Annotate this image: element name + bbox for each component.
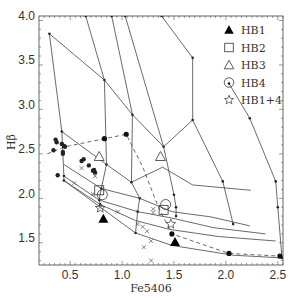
age-line bbox=[112, 16, 140, 233]
grid-node bbox=[84, 15, 87, 18]
cross-marker bbox=[151, 207, 155, 211]
legend-item: HB4 bbox=[224, 77, 265, 90]
open-triangle-marker bbox=[224, 60, 234, 69]
chart: 0.51.01.52.02.51.52.02.53.03.54.0 Fe5406… bbox=[0, 0, 291, 298]
grid-node bbox=[110, 15, 113, 18]
open-star-marker bbox=[224, 95, 233, 104]
filled-triangle-marker bbox=[170, 237, 180, 246]
dot-marker bbox=[63, 145, 67, 149]
y-tick-label: 2.5 bbox=[18, 142, 35, 156]
metallicity-line bbox=[64, 181, 282, 258]
dot-marker bbox=[51, 148, 55, 152]
y-tick-label: 1.5 bbox=[18, 231, 35, 245]
track-node bbox=[102, 136, 107, 141]
metallicity-line bbox=[49, 34, 192, 147]
age-line bbox=[49, 34, 64, 181]
grid-node bbox=[248, 117, 251, 120]
grid-node bbox=[277, 206, 280, 209]
legend-item: HB2 bbox=[225, 42, 266, 55]
legend-label: HB2 bbox=[241, 42, 266, 55]
y-axis-title: Hβ bbox=[5, 134, 18, 150]
filled-triangle-marker bbox=[98, 214, 108, 223]
legend: HB1HB2HB3HB4HB1+4 bbox=[224, 24, 282, 107]
cross-marker bbox=[72, 181, 76, 185]
y-tick-label: 3.5 bbox=[18, 53, 35, 67]
legend-item: HB1+4 bbox=[224, 94, 281, 107]
grid-node bbox=[124, 15, 127, 18]
x-tick-label: 2.5 bbox=[269, 268, 286, 282]
x-tick-label: 2.0 bbox=[218, 268, 235, 282]
dot-marker bbox=[54, 140, 58, 144]
x-tick-label: 0.5 bbox=[62, 268, 79, 282]
dot-marker bbox=[87, 163, 91, 167]
grid-node bbox=[221, 180, 224, 183]
legend-item: HB3 bbox=[224, 59, 265, 72]
age-line bbox=[229, 84, 282, 258]
cross-marker bbox=[149, 239, 153, 243]
age-line bbox=[86, 16, 107, 205]
dot-marker bbox=[81, 157, 85, 161]
grid-node bbox=[274, 180, 277, 183]
open-star-marker bbox=[166, 219, 176, 228]
grid-node bbox=[175, 206, 178, 209]
grid-node bbox=[191, 56, 194, 59]
open-triangle-marker bbox=[155, 152, 165, 161]
dot-marker bbox=[61, 150, 65, 154]
cross-marker bbox=[145, 229, 149, 233]
legend-label: HB1 bbox=[241, 24, 266, 37]
cross-marker bbox=[149, 259, 153, 263]
legend-item: HB1 bbox=[224, 24, 265, 37]
cross-marker bbox=[151, 211, 155, 215]
cross-marker bbox=[80, 166, 84, 170]
track-node bbox=[169, 231, 174, 236]
grid-node bbox=[160, 15, 163, 18]
grid-node bbox=[173, 193, 176, 196]
open-triangle-marker bbox=[94, 152, 104, 161]
open-circle-marker bbox=[161, 200, 171, 210]
open-square-marker bbox=[225, 43, 234, 52]
y-tick-label: 3.0 bbox=[18, 98, 35, 112]
cross-marker bbox=[142, 245, 146, 249]
x-axis-title: Fe5406 bbox=[130, 282, 172, 295]
y-tick-label: 2.0 bbox=[18, 187, 35, 201]
y-tick-label: 4.0 bbox=[18, 9, 35, 23]
legend-label: HB4 bbox=[241, 77, 266, 90]
age-line bbox=[162, 16, 234, 224]
dot-marker bbox=[55, 173, 59, 177]
track-node bbox=[226, 251, 231, 256]
legend-label: HB1+4 bbox=[241, 94, 282, 107]
track-node bbox=[124, 132, 129, 137]
x-tick-label: 1.0 bbox=[114, 268, 131, 282]
filled-triangle-marker bbox=[224, 25, 234, 34]
cross-marker bbox=[141, 225, 145, 229]
grid-node bbox=[232, 223, 235, 226]
grid-node bbox=[175, 215, 178, 218]
dashed-track bbox=[47, 134, 280, 256]
x-tick-label: 1.5 bbox=[166, 268, 183, 282]
track-node bbox=[277, 254, 282, 259]
grid-node bbox=[228, 82, 231, 85]
legend-label: HB3 bbox=[241, 59, 266, 72]
